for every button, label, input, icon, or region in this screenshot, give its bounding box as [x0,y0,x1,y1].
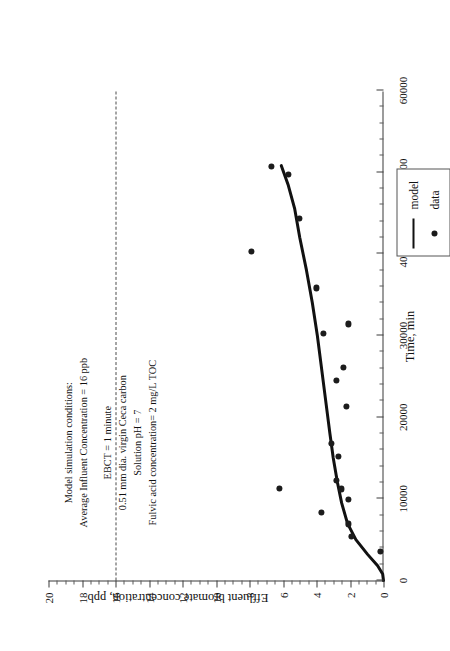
x-axis-tick-major [376,252,383,253]
x-axis-tick-minor [379,383,383,384]
legend-item-model: model [405,180,421,248]
data-point [345,320,351,326]
y-axis-tick-major [115,580,116,587]
data-point [276,485,282,491]
x-axis-tick-minor [379,187,383,188]
x-axis-tick-minor [379,122,383,123]
x-axis-tick-minor [379,301,383,302]
data-point [348,533,354,539]
y-axis-tick-minor [274,580,275,584]
data-point [338,485,344,491]
x-axis-tick-major [376,497,383,498]
x-axis-tick-minor [379,465,383,466]
y-axis-tick-minor [266,580,267,584]
annotation-line: Average Influent Concentration = 16 ppb [76,357,91,526]
data-point [328,440,334,446]
y-axis-tick-minor [90,580,91,584]
x-axis-tick-minor [379,546,383,547]
x-axis-tick-minor [379,138,383,139]
y-axis-tick-minor [65,580,66,584]
x-axis-title: Time, min [402,91,417,581]
data-point [333,377,339,383]
x-axis-tick-major [376,579,383,580]
x-axis-tick-minor [379,432,383,433]
x-axis-tick-minor [379,530,383,531]
y-axis-tick-minor [123,580,124,584]
x-axis-tick-minor [379,563,383,564]
data-point [377,548,383,554]
y-axis-tick-major [182,580,183,587]
data-point [320,330,326,336]
y-axis-tick-minor [190,580,191,584]
dot-swatch-icon [431,218,437,248]
y-axis-tick-minor [333,580,334,584]
data-point [340,364,346,370]
annotation-line: Model simulation conditions: [61,357,76,526]
y-axis-tick-major [383,580,384,587]
data-point [335,453,341,459]
y-axis-tick-major [82,580,83,587]
y-axis-tick-minor [56,580,57,584]
y-axis-tick-major [350,580,351,587]
y-axis-tick-minor [207,580,208,584]
y-axis-tick-minor [375,580,376,584]
y-axis-tick-minor [232,580,233,584]
y-axis-tick-minor [366,580,367,584]
annotation-line: 0.51 mm dia. virgin Ceca carbon [115,357,130,526]
line-swatch-icon [412,218,414,248]
data-point [333,477,339,483]
y-axis-tick-major [149,580,150,587]
y-axis-tick-minor [199,580,200,584]
data-point [313,285,319,291]
y-axis-tick-minor [157,580,158,584]
y-axis-title: Effluent bromate concentration, ppb [28,590,328,605]
x-axis-tick-minor [379,220,383,221]
y-axis-tick-minor [291,580,292,584]
annotation-spacer [91,357,100,526]
x-axis-tick-major [376,334,383,335]
y-axis-tick-minor [165,580,166,584]
y-axis-tick-minor [299,580,300,584]
x-axis-tick-minor [379,448,383,449]
y-axis-tick-minor [308,580,309,584]
y-axis-tick-major [216,580,217,587]
x-axis-tick-minor [379,399,383,400]
y-axis-tick-minor [107,580,108,584]
data-point [248,248,254,254]
data-point [268,163,274,169]
legend-item-data: data [426,190,442,248]
y-axis-tick-major [249,580,250,587]
y-axis-tick-minor [98,580,99,584]
annotation-line: Solution pH = 7 [130,357,145,526]
x-axis-tick-major [376,171,383,172]
data-point [284,171,290,177]
legend-label-data: data [428,190,440,209]
y-axis-tick-minor [257,580,258,584]
legend-label-model: model [407,180,419,209]
annotation-line: EBCT = 1 minute [100,357,115,526]
x-axis-tick-minor [379,269,383,270]
y-axis-tick-minor [358,580,359,584]
y-axis-tick-minor [174,580,175,584]
x-axis-tick-minor [379,514,383,515]
data-point [345,496,351,502]
model-curve-path [281,165,383,580]
data-point [345,521,351,527]
annotation-line: Fulvic acid concentration= 2 mg/L TOC [145,357,160,526]
y-axis-tick-label: 0 [377,592,389,598]
x-axis-tick-minor [379,203,383,204]
x-axis-tick-minor [379,105,383,106]
y-axis-tick-major [48,580,49,587]
data-point [296,215,302,221]
x-axis-tick-minor [379,154,383,155]
y-axis-tick-major [316,580,317,587]
x-axis-tick-minor [379,367,383,368]
y-axis-tick-minor [132,580,133,584]
annotation-text: Model simulation conditions:Average Infl… [61,357,160,526]
x-axis-tick-minor [379,350,383,351]
x-axis-tick-minor [379,318,383,319]
y-axis-tick-major [283,580,284,587]
y-axis-tick-minor [140,580,141,584]
